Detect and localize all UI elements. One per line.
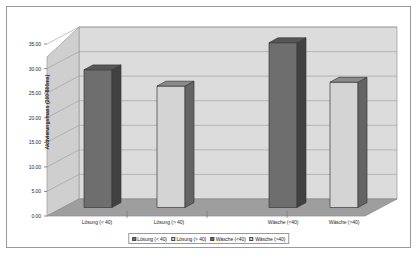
bar-series-2[interactable] xyxy=(157,81,194,207)
plot-area: 0.00 5.00 10.00 15.00 20.00 25.00 30.00 … xyxy=(17,13,401,223)
legend-swatch-icon xyxy=(250,237,254,241)
bar-1-front[interactable] xyxy=(84,70,112,208)
y-tick-label-25: 25.00 xyxy=(15,90,41,96)
y-tick-label-5: 5.00 xyxy=(15,188,41,194)
legend-item-label: Wäsche (>40) xyxy=(255,236,285,242)
bar-2-side[interactable] xyxy=(185,81,194,207)
bar-3-side[interactable] xyxy=(297,38,306,208)
legend-item-label: Lösung (> 40) xyxy=(176,236,206,242)
plot-3d-canvas xyxy=(17,13,401,223)
y-tick-label-20: 20.00 xyxy=(15,115,41,121)
bar-4-side[interactable] xyxy=(358,77,367,207)
legend-swatch-icon xyxy=(171,237,175,241)
y-tick-label-0: 0.00 xyxy=(15,213,41,219)
bar-series-4[interactable] xyxy=(330,77,367,207)
legend-item-3[interactable]: Wäsche (<40) xyxy=(210,236,246,242)
bar-4-front[interactable] xyxy=(330,82,358,207)
bar-1-side[interactable] xyxy=(112,65,121,208)
legend-item-2[interactable]: Lösung (> 40) xyxy=(171,236,206,242)
x-tick-label-1: Lösung (< 40) xyxy=(82,219,112,225)
legend-item-4[interactable]: Wäsche (>40) xyxy=(250,236,286,242)
bar-2-front[interactable] xyxy=(157,86,185,207)
y-axis-title: Aktivierungsmass (200-800ms) xyxy=(44,52,50,172)
y-tick-label-10: 10.00 xyxy=(15,164,41,170)
x-tick-label-4: Wäsche (>40) xyxy=(329,219,360,225)
x-tick-label-2: Lösung (> 40) xyxy=(154,219,184,225)
legend-item-label: Lösung (< 40) xyxy=(137,236,167,242)
chart-legend: Lösung (< 40) Lösung (> 40) Wäsche (<40)… xyxy=(128,233,290,244)
bar-series-1[interactable] xyxy=(84,65,121,208)
plot-left-wall xyxy=(47,27,79,216)
legend-item-label: Wäsche (<40) xyxy=(216,236,246,242)
bar-3-front[interactable] xyxy=(269,43,297,208)
legend-swatch-icon xyxy=(210,237,214,241)
y-tick-label-35: 35.00 xyxy=(15,41,41,47)
y-tick-label-15: 15.00 xyxy=(15,139,41,145)
x-tick-label-3: Wäsche (<40) xyxy=(268,219,299,225)
y-tick-label-30: 30.00 xyxy=(15,66,41,72)
legend-item-1[interactable]: Lösung (< 40) xyxy=(132,236,167,242)
bar-series-3[interactable] xyxy=(269,38,306,208)
chart-frame: 0.00 5.00 10.00 15.00 20.00 25.00 30.00 … xyxy=(6,6,411,248)
chart-screenshot: 0.00 5.00 10.00 15.00 20.00 25.00 30.00 … xyxy=(0,0,419,261)
legend-swatch-icon xyxy=(132,237,136,241)
